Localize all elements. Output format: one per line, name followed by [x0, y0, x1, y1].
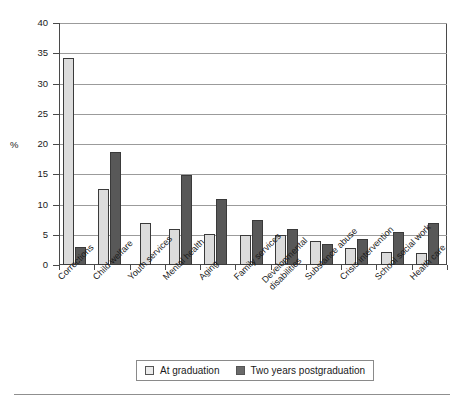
legend-label: At graduation — [160, 365, 220, 376]
legend-label: Two years postgraduation — [251, 365, 366, 376]
y-axis-tick-labels: 0510152025303540 — [0, 0, 50, 406]
bar-chart-figure: 0510152025303540 % CorrectionsChild welf… — [0, 0, 464, 406]
light-swatch-icon — [145, 366, 154, 375]
y-axis-tick-label: 35 — [18, 48, 48, 58]
bar-two-years-postgraduation — [216, 199, 227, 265]
y-axis-tick-label: 25 — [18, 109, 48, 119]
legend-item-two-years-postgraduation: Two years postgraduation — [236, 365, 366, 376]
legend-item-at-graduation: At graduation — [145, 365, 220, 376]
y-axis-title: % — [10, 139, 18, 150]
dark-swatch-icon — [236, 366, 245, 375]
y-axis-tick-label: 15 — [18, 169, 48, 179]
y-axis-tick-label: 0 — [18, 260, 48, 270]
y-axis-tick-label: 5 — [18, 230, 48, 240]
bar-at-graduation — [98, 189, 109, 265]
y-axis-tick-label: 10 — [18, 200, 48, 210]
bar-at-graduation — [63, 58, 74, 266]
y-axis-tick-label: 20 — [18, 139, 48, 149]
y-axis-tick-label: 30 — [18, 79, 48, 89]
chart-legend: At graduation Two years postgraduation — [136, 360, 374, 381]
x-axis-tick — [447, 265, 448, 270]
bottom-divider — [14, 394, 450, 395]
y-axis-tick-label: 40 — [18, 18, 48, 28]
